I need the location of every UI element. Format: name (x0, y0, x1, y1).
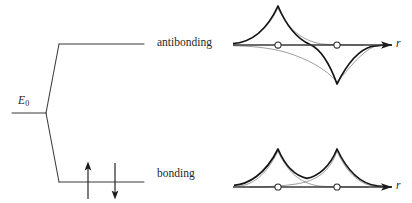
antibonding-component-right (233, 45, 392, 82)
bonding-orbital-plot (233, 149, 392, 191)
nucleus-marker (275, 184, 281, 190)
bonding-axis-label-r: r (396, 180, 400, 192)
electron-spin-arrows (85, 162, 119, 200)
nucleus-marker (275, 42, 281, 48)
base-energy-subscript: 0 (25, 99, 29, 108)
base-energy-symbol: E (18, 94, 25, 106)
molecular-orbital-figure: antibonding bonding E0 r r (0, 0, 412, 203)
antibonding-component-left (233, 8, 364, 45)
correlation-line-antibonding (46, 44, 59, 113)
bonding-component-right (250, 151, 392, 187)
bonding-component-curves (238, 151, 392, 187)
energy-level-diagram (12, 44, 144, 182)
bonding-sum-curve (234, 149, 392, 187)
nucleus-marker (334, 184, 340, 190)
antibonding-orbital-plot (233, 6, 392, 84)
figure-vector-layer (0, 0, 412, 203)
correlation-line-bonding (46, 113, 59, 182)
base-energy-level-label: E0 (18, 95, 29, 108)
spin-down-arrow (112, 163, 119, 200)
nucleus-marker (334, 42, 340, 48)
antibonding-axis-label-r: r (396, 38, 400, 50)
spin-up-arrow (85, 162, 92, 200)
antibonding-level-label: antibonding (157, 37, 212, 49)
bonding-level-label: bonding (157, 168, 195, 180)
